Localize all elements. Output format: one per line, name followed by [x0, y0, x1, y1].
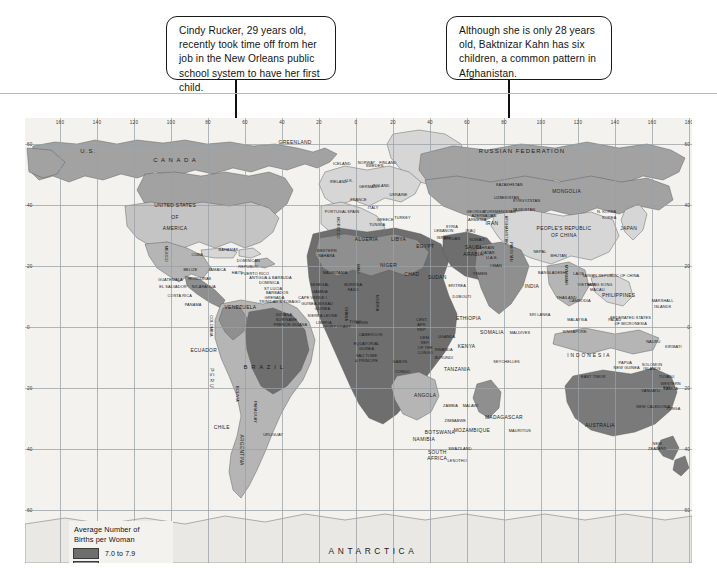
longitude-tick: 20: [316, 120, 322, 125]
legend-item-label: 7.0 to 7.9: [105, 550, 135, 557]
latitude-tick-left: 60: [27, 508, 33, 513]
legend-item: 7.0 to 7.9: [73, 548, 170, 559]
longitude-tick: 140: [611, 120, 619, 125]
latitude-tick-right: 60: [684, 508, 690, 513]
longitude-tick: 40: [279, 120, 285, 125]
latitude-tick-left: 40: [27, 447, 33, 452]
longitude-tick: 120: [130, 120, 138, 125]
latitude-tick-left: 0: [27, 325, 30, 330]
legend-title-line-1: Average Number of: [74, 525, 170, 535]
longitude-tick: 140: [93, 120, 101, 125]
longitude-tick: 20: [390, 120, 396, 125]
latitude-tick-right: 40: [684, 447, 690, 452]
longitude-tick: 100: [167, 120, 175, 125]
callout-bubble-afghanistan: Although she is only 28 years old, Baktn…: [446, 16, 612, 80]
latitude-tick-right: 40: [684, 203, 690, 208]
header-divider-rule: [0, 93, 717, 94]
longitude-tick: 0: [355, 120, 358, 125]
longitude-tick: 180: [685, 120, 692, 125]
longitude-tick: 40: [427, 120, 433, 125]
longitude-tick: 80: [205, 120, 211, 125]
longitude-tick: 100: [537, 120, 545, 125]
latitude-tick-right: 20: [684, 264, 690, 269]
map-legend: Average Number of Births per Woman 7.0 t…: [69, 521, 173, 563]
landmass-shapes: [25, 118, 692, 563]
latitude-tick-right: 20: [684, 386, 690, 391]
latitude-tick-right: 60: [684, 142, 690, 147]
longitude-tick: 60: [464, 120, 470, 125]
longitude-tick: 120: [574, 120, 582, 125]
longitude-tick: 80: [501, 120, 507, 125]
legend-swatch: [73, 548, 99, 559]
legend-item: 6.0 to 6.9: [73, 561, 170, 563]
callout-bubble-united-states: Cindy Rucker, 29 years old, recently too…: [166, 16, 336, 80]
longitude-tick: 160: [56, 120, 64, 125]
longitude-tick: 60: [242, 120, 248, 125]
latitude-tick-right: 0: [687, 325, 690, 330]
legend-swatch: [73, 561, 99, 563]
latitude-tick-left: 60: [27, 142, 33, 147]
latitude-tick-left: 20: [27, 264, 33, 269]
legend-title-line-2: Births per Woman: [74, 535, 170, 545]
latitude-tick-left: 20: [27, 386, 33, 391]
latitude-tick-left: 40: [27, 203, 33, 208]
world-map: 1601401201008060402002040608010012014016…: [25, 118, 692, 563]
legend-title: Average Number of Births per Woman: [74, 525, 170, 544]
longitude-tick: 160: [648, 120, 656, 125]
